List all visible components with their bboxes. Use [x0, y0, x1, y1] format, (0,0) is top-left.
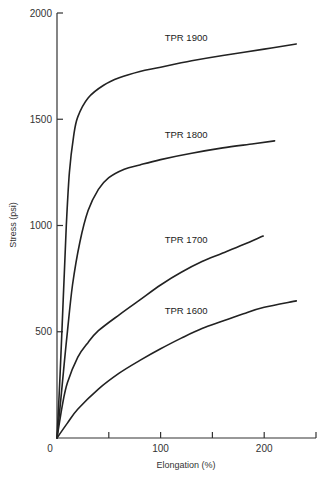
y-axis-title: Stress (psi)	[8, 202, 18, 248]
stress-elongation-chart: 5001000150020000100200 TPR 1900TPR 1800T…	[0, 0, 328, 480]
x-tick-label: 0	[47, 443, 53, 454]
series-label-tpr-1600: TPR 1600	[165, 305, 208, 316]
series-labels: TPR 1900TPR 1800TPR 1700TPR 1600	[165, 32, 208, 316]
series-label-tpr-1800: TPR 1800	[165, 129, 208, 140]
y-tick-label: 1500	[30, 114, 53, 125]
x-tick-label: 200	[256, 443, 273, 454]
y-tick-label: 2000	[30, 8, 53, 19]
curve-tpr-1600	[57, 301, 296, 438]
x-axis-title: Elongation (%)	[156, 460, 215, 470]
y-tick-label: 500	[35, 326, 52, 337]
series-label-tpr-1700: TPR 1700	[165, 234, 208, 245]
curve-tpr-1700	[57, 236, 263, 438]
y-tick-label: 1000	[30, 220, 53, 231]
curve-tpr-1800	[57, 141, 275, 438]
tick-marks	[57, 13, 316, 438]
series-label-tpr-1900: TPR 1900	[165, 32, 208, 43]
axes	[57, 13, 316, 438]
x-tick-label: 100	[152, 443, 169, 454]
